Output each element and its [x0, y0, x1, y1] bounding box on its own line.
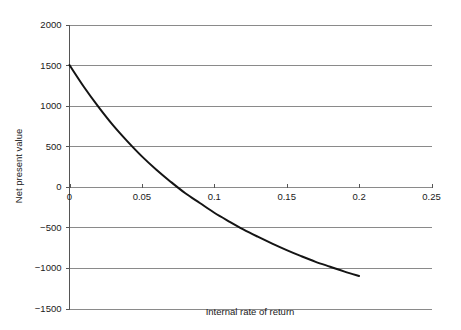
chart-figure: −1500−1000−5000500100015002000 00.050.10… [0, 0, 461, 330]
y-tick-label-2000: 2000 [40, 19, 61, 30]
x-tick-label-0.25: 0.25 [422, 191, 441, 202]
x-tick-label-0.15: 0.15 [277, 191, 296, 202]
y-tick-label--500: −500 [40, 222, 61, 233]
y-tick-label--1500: −1500 [35, 303, 62, 314]
y-tick-label--1000: −1000 [35, 262, 62, 273]
x-tick-label-0: 0 [67, 191, 72, 202]
x-tick-label-0.05: 0.05 [133, 191, 152, 202]
x-axis-title: Internal rate of return [206, 306, 295, 317]
y-tick-label-0: 0 [56, 181, 61, 192]
y-tick-label-1000: 1000 [40, 100, 61, 111]
y-tick-label-1500: 1500 [40, 60, 61, 71]
y-tick-label-500: 500 [46, 141, 62, 152]
x-tick-label-0.1: 0.1 [208, 191, 221, 202]
x-tick-label-0.2: 0.2 [352, 191, 365, 202]
npv-vs-irr-line-chart: −1500−1000−5000500100015002000 00.050.10… [0, 0, 461, 330]
y-axis-title: Net present value [13, 129, 24, 203]
